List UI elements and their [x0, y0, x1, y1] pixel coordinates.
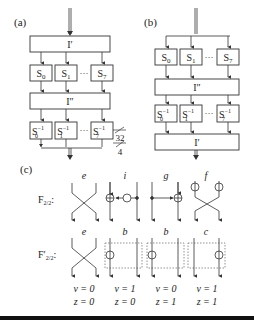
svg-text:···: ···	[205, 108, 214, 118]
vz-labels: v = 0 z = 0 v = 1 z = 0 v = 0 z = 1 v = …	[73, 283, 218, 307]
panel-c-label: (c)	[20, 163, 33, 176]
input-bus-icon	[67, 8, 73, 36]
svg-text:I″: I″	[66, 96, 74, 107]
dotted-box	[188, 243, 225, 268]
svg-text:z = 1: z = 1	[155, 296, 177, 307]
sbox-row: S0 S1 ··· S7	[155, 49, 239, 65]
not-icon	[123, 194, 131, 202]
dotted-box	[105, 243, 142, 268]
row1-label: F2/2:	[38, 194, 54, 206]
svg-text:v = 1: v = 1	[114, 283, 135, 294]
output-bus-icon	[193, 150, 199, 160]
svg-text:v = 0: v = 0	[73, 283, 94, 294]
bottom-border	[0, 316, 254, 320]
panel-a-label: (a)	[14, 16, 27, 29]
svg-text:z = 0: z = 0	[73, 296, 95, 307]
svg-text:···: ···	[205, 52, 214, 62]
svg-text:c: c	[204, 226, 209, 237]
svg-text:v = 0: v = 0	[155, 283, 176, 294]
output-bus-icon	[67, 148, 73, 160]
svg-text:I′: I′	[194, 137, 200, 148]
panel-b-label: (b)	[144, 16, 157, 29]
row2-label: F′2/2:	[38, 249, 56, 261]
svg-text:f: f	[205, 170, 209, 181]
inverse-sbox-row: S−10 S−11 ··· S−17	[155, 105, 239, 122]
svg-text:i: i	[124, 170, 127, 181]
dotted-box	[147, 243, 184, 268]
cell-b-not-left	[147, 238, 184, 276]
cell-e-cross	[72, 238, 96, 276]
svg-text:e: e	[82, 170, 87, 181]
sbox-row: S0 S1 ··· S7	[30, 65, 113, 81]
diagram-canvas: (a) I′ S0 S1 ··· S7	[0, 0, 254, 320]
cell-i-xor	[106, 182, 138, 220]
cell-c-not-right	[188, 238, 225, 276]
ellipsis: ···	[80, 68, 89, 78]
svg-text:z = 1: z = 1	[196, 296, 218, 307]
panel-a: (a) I′ S0 S1 ··· S7	[14, 8, 113, 160]
bus-width-4: 4	[118, 147, 123, 157]
panel-b: (b) S0 S1 ··· S7 I″	[144, 8, 239, 160]
block-label: I′	[67, 39, 73, 50]
svg-text:z = 0: z = 0	[114, 296, 136, 307]
svg-text:b: b	[123, 226, 128, 237]
svg-text:g: g	[164, 170, 169, 181]
cell-e-cross	[72, 183, 96, 220]
cell-b-not-left	[105, 238, 142, 276]
cell-f-cross-not	[191, 181, 223, 220]
svg-text:···: ···	[80, 125, 89, 135]
inverse-sbox-row: S−10 S−11 ··· S−17	[30, 122, 113, 139]
svg-text:e: e	[82, 226, 87, 237]
bus-width-annotation: 32 4	[113, 127, 126, 157]
input-bus-icon	[195, 8, 197, 34]
panel-c: (c) F2/2: F′2/2: e i g f	[20, 163, 225, 307]
svg-text:v = 1: v = 1	[196, 283, 217, 294]
svg-text:I″: I″	[193, 82, 201, 93]
svg-text:b: b	[164, 226, 169, 237]
cell-g-xor	[151, 182, 182, 220]
